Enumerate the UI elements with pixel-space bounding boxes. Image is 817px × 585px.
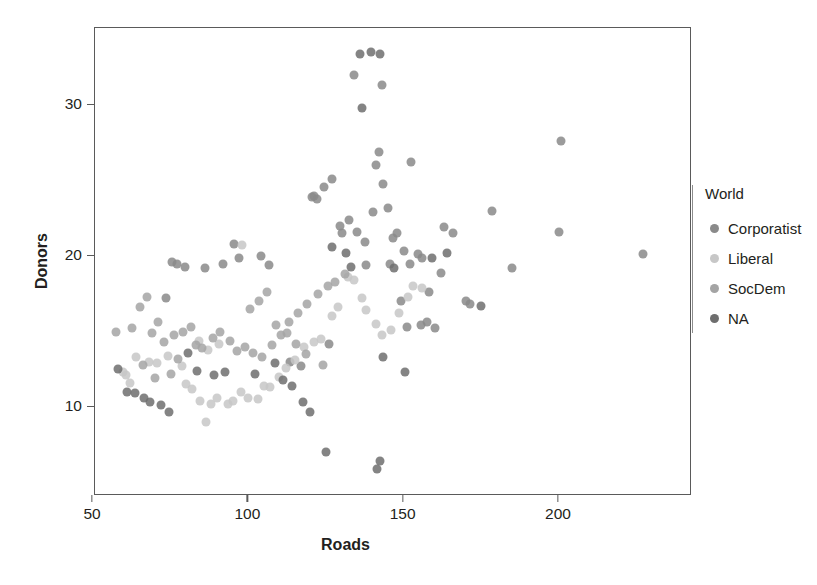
- data-point: [151, 374, 160, 383]
- x-axis-label: Roads: [0, 536, 691, 554]
- y-tick-label: 20: [65, 246, 82, 264]
- data-point: [193, 366, 202, 375]
- x-tick-mark: [402, 495, 403, 502]
- data-point: [219, 259, 228, 268]
- data-point: [377, 330, 386, 339]
- data-point: [163, 351, 172, 360]
- x-tick-label: 50: [83, 505, 100, 523]
- data-point: [443, 248, 452, 257]
- data-point: [379, 179, 388, 188]
- data-point: [349, 70, 358, 79]
- data-point: [138, 360, 147, 369]
- x-tick-mark: [247, 495, 248, 502]
- data-point: [320, 182, 329, 191]
- data-point: [210, 371, 219, 380]
- legend-item-corporatist[interactable]: Corporatist: [705, 213, 817, 243]
- data-point: [357, 294, 366, 303]
- legend-item-label: NA: [728, 310, 749, 327]
- data-point: [328, 242, 337, 251]
- data-point: [440, 223, 449, 232]
- data-point: [335, 221, 344, 230]
- data-point: [376, 457, 385, 466]
- data-point: [152, 359, 161, 368]
- data-point: [135, 303, 144, 312]
- data-point: [334, 303, 343, 312]
- data-point: [130, 389, 139, 398]
- data-point: [371, 319, 380, 328]
- data-point: [418, 283, 427, 292]
- data-point: [314, 289, 323, 298]
- x-tick-label: 150: [390, 505, 416, 523]
- data-point: [244, 393, 253, 402]
- data-point: [272, 321, 281, 330]
- data-point: [346, 262, 355, 271]
- y-tick-mark: [87, 104, 94, 105]
- data-point: [235, 253, 244, 262]
- data-point: [377, 81, 386, 90]
- data-point: [174, 354, 183, 363]
- x-tick-mark: [557, 495, 558, 502]
- legend-item-socdem[interactable]: SocDem: [705, 273, 817, 303]
- data-point: [160, 338, 169, 347]
- data-point: [325, 339, 334, 348]
- data-point: [301, 350, 310, 359]
- data-point: [148, 329, 157, 338]
- data-point: [281, 363, 290, 372]
- data-point: [328, 312, 337, 321]
- data-point: [186, 322, 195, 331]
- data-point: [126, 378, 135, 387]
- data-point: [395, 309, 404, 318]
- data-point: [287, 381, 296, 390]
- legend-item-na[interactable]: NA: [705, 303, 817, 333]
- data-point: [638, 250, 647, 259]
- data-point: [264, 261, 273, 270]
- x-tick-label: 100: [234, 505, 260, 523]
- data-point: [162, 294, 171, 303]
- data-point: [390, 264, 399, 273]
- data-point: [374, 147, 383, 156]
- data-point: [213, 393, 222, 402]
- data-point: [402, 322, 411, 331]
- data-point: [555, 227, 564, 236]
- data-point: [166, 369, 175, 378]
- data-point: [256, 252, 265, 261]
- y-tick-mark: [87, 406, 94, 407]
- legend-item-liberal[interactable]: Liberal: [705, 243, 817, 273]
- data-point: [216, 327, 225, 336]
- data-point: [368, 208, 377, 217]
- data-point: [245, 304, 254, 313]
- legend: World CorporatistLiberalSocDemNA: [692, 185, 817, 333]
- data-point: [196, 396, 205, 405]
- data-point: [253, 395, 262, 404]
- data-point: [309, 191, 318, 200]
- data-point: [318, 360, 327, 369]
- data-point: [408, 282, 417, 291]
- data-point: [262, 288, 271, 297]
- y-axis-label: Donors: [33, 233, 51, 289]
- data-point: [405, 259, 414, 268]
- data-point: [376, 49, 385, 58]
- data-points-layer: [95, 28, 690, 494]
- x-tick-mark: [91, 495, 92, 502]
- data-point: [188, 384, 197, 393]
- data-point: [197, 344, 206, 353]
- data-point: [345, 215, 354, 224]
- data-point: [183, 348, 192, 357]
- legend-swatch-icon: [710, 224, 719, 233]
- data-point: [331, 277, 340, 286]
- data-point: [169, 330, 178, 339]
- data-point: [384, 203, 393, 212]
- x-tick-label: 200: [545, 505, 571, 523]
- data-point: [267, 341, 276, 350]
- data-point: [306, 407, 315, 416]
- data-point: [283, 329, 292, 338]
- data-point: [436, 268, 445, 277]
- data-point: [294, 309, 303, 318]
- data-point: [387, 325, 396, 334]
- legend-item-label: SocDem: [728, 280, 786, 297]
- data-point: [250, 369, 259, 378]
- data-point: [258, 353, 267, 362]
- data-point: [284, 318, 293, 327]
- data-point: [340, 270, 349, 279]
- data-point: [477, 301, 486, 310]
